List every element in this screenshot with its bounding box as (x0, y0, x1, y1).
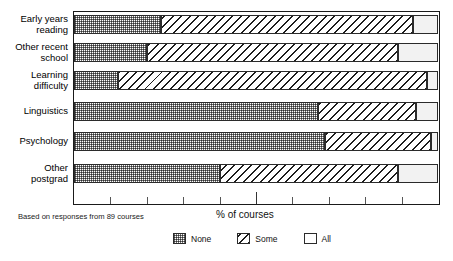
bar-segment-some (318, 102, 416, 121)
bar-segment-none (74, 132, 325, 151)
bar-row (74, 15, 438, 34)
category-axis-labels: Early years readingOther recent schoolLe… (0, 11, 68, 205)
category-label: Other postgrad (31, 162, 68, 184)
bar-segment-some (161, 15, 412, 34)
bar-segment-some (325, 132, 431, 151)
legend-item-all: All (304, 233, 331, 244)
x-axis-tick (292, 197, 293, 204)
bar-segment-all (413, 15, 438, 34)
category-label: Other recent school (15, 41, 68, 63)
bar-row (74, 102, 438, 121)
source-note: Based on responses from 89 courses (18, 212, 144, 221)
legend-swatch-none-icon (173, 233, 186, 244)
bar-segment-all (398, 164, 438, 183)
bar-segment-all (431, 132, 438, 151)
legend-label: None (191, 234, 211, 244)
bar-segment-some (147, 43, 398, 62)
bar-segment-all (398, 43, 438, 62)
chart-legend: NoneSomeAll (173, 233, 331, 244)
legend-item-none: None (173, 233, 211, 244)
x-axis-tick (147, 197, 148, 204)
bar-segment-some (220, 164, 398, 183)
bar-segment-all (416, 102, 438, 121)
x-axis-tick (402, 197, 403, 204)
x-axis-tick (183, 197, 184, 204)
stacked-bar-chart: Early years readingOther recent schoolLe… (0, 0, 453, 261)
legend-item-some: Some (237, 233, 277, 244)
bar-segment-none (74, 71, 118, 90)
category-label: Learning difficulty (31, 69, 68, 91)
legend-swatch-all-icon (304, 233, 317, 244)
bar-segment-some (118, 71, 427, 90)
x-axis-tick (256, 192, 257, 204)
bar-row (74, 71, 438, 90)
legend-swatch-some-icon (237, 233, 250, 244)
bar-row (74, 43, 438, 62)
x-axis-tick (110, 197, 111, 204)
category-label: Psychology (19, 135, 68, 146)
legend-label: Some (255, 234, 277, 244)
category-label: Linguistics (24, 105, 68, 116)
cut-off-title (68, 0, 318, 2)
x-axis-tick (365, 197, 366, 204)
bar-row (74, 132, 438, 151)
x-axis-tick (220, 197, 221, 204)
bar-segment-none (74, 43, 147, 62)
bar-row (74, 164, 438, 183)
x-axis-title: % of courses (216, 209, 274, 220)
x-axis-tick (329, 197, 330, 204)
bar-segment-all (427, 71, 438, 90)
bar-segment-none (74, 102, 318, 121)
bar-segment-none (74, 15, 161, 34)
legend-label: All (322, 234, 331, 244)
plot-area (73, 11, 440, 205)
category-label: Early years reading (20, 13, 68, 35)
bar-segment-none (74, 164, 220, 183)
